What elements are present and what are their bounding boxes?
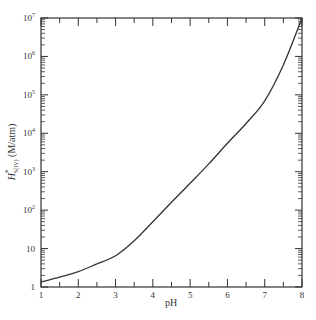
x-axis-label: pH [165, 297, 177, 308]
x-tick-label: 7 [262, 290, 267, 300]
x-tick-label: 4 [151, 290, 156, 300]
y-tick-label: 10 [26, 244, 36, 254]
y-tick-label: 105 [23, 89, 35, 100]
x-axis-ticks: 12345678 [39, 18, 305, 300]
chart: 110102103104105106107 12345678 pH H*S(IV… [0, 0, 316, 320]
y-tick-label: 107 [23, 12, 35, 23]
y-axis-label: H*S(IV) (M/atm) [4, 124, 20, 182]
y-tick-label: 102 [23, 204, 35, 215]
x-tick-label: 3 [113, 290, 118, 300]
x-tick-label: 8 [300, 290, 305, 300]
x-tick-label: 6 [225, 290, 230, 300]
y-tick-label: 1 [31, 282, 36, 292]
y-axis-ticks: 110102103104105106107 [23, 12, 302, 292]
data-line [41, 18, 302, 282]
plot-frame [41, 18, 302, 287]
x-tick-label: 2 [76, 290, 81, 300]
x-tick-label: 5 [188, 290, 193, 300]
y-tick-label: 104 [23, 127, 35, 138]
y-tick-label: 106 [23, 50, 35, 61]
x-tick-label: 1 [39, 290, 44, 300]
y-tick-label: 103 [23, 166, 35, 177]
